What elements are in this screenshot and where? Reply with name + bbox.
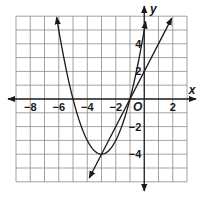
x-tick-label: −8 [24,101,37,113]
y-tick-label: 2 [135,65,141,77]
axes [8,6,196,191]
x-axis-label: x [188,83,197,97]
coordinate-plane: −8−6−4−2242−2−4Oxy [0,0,206,199]
origin-label: O [133,100,143,114]
x-tick-label: 2 [170,101,176,113]
x-tick-label: −4 [81,101,94,113]
y-axis-label: y [149,2,158,16]
x-tick-label: −2 [109,101,122,113]
x-tick-label: −6 [52,101,65,113]
y-tick-label: −2 [129,121,142,133]
y-tick-label: −4 [129,148,142,160]
y-tick-label: 4 [135,38,142,50]
